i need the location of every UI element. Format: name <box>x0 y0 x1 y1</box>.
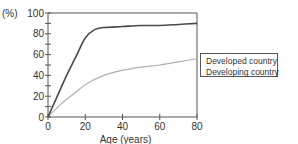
y-tick-label: 20 <box>33 91 45 102</box>
y-tick-label: 60 <box>33 49 45 60</box>
x-tick-label: 40 <box>117 121 129 132</box>
chart-lines <box>48 23 197 117</box>
legend-label-developed: Developed country <box>206 56 277 66</box>
x-tick-label: 20 <box>80 121 92 132</box>
legend-item-developing: Developing country <box>203 66 275 77</box>
legend-label-developing: Developing country <box>206 67 279 77</box>
y-tick-label: 40 <box>33 70 45 81</box>
x-tick-label: 60 <box>154 121 166 132</box>
y-tick-label: 80 <box>33 28 45 39</box>
x-axis-title: Age (years) <box>100 134 152 144</box>
legend-item-developed: Developed country <box>203 55 275 66</box>
y-axis-unit: (%) <box>2 8 18 19</box>
chart-legend: Developed country Developing country <box>200 53 278 77</box>
x-tick-label: 0 <box>45 121 51 132</box>
y-tick-label: 100 <box>27 8 44 19</box>
x-tick-label: 80 <box>191 121 203 132</box>
y-tick-label: 0 <box>38 112 44 123</box>
